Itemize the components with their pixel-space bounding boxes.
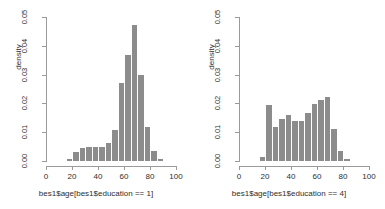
y-axis-tick-label-text: 0.01 [213, 125, 222, 140]
y-axis-tick-label-text: 0.02 [20, 96, 29, 111]
y-axis-tick [235, 46, 239, 47]
x-axis-tick [176, 166, 177, 170]
x-axis-tick [369, 166, 370, 170]
x-axis-tick-label: 100 [164, 172, 188, 181]
y-axis-tick [42, 17, 46, 18]
x-axis-tick-label: 60 [112, 172, 136, 181]
y-axis-tick [42, 103, 46, 104]
histogram-bar [318, 100, 324, 161]
y-axis-tick [235, 161, 239, 162]
y-axis-tick [42, 132, 46, 133]
histogram-bar [292, 121, 298, 161]
x-axis-tick [343, 166, 344, 170]
plot-area-right [240, 17, 370, 161]
x-axis-tick [265, 166, 266, 170]
x-axis-title-left: bes1$age[bes1$education == 1] [0, 189, 192, 198]
x-axis-tick [124, 166, 125, 170]
histogram-bar [331, 129, 337, 161]
y-axis-tick [42, 46, 46, 47]
histogram-bar [266, 105, 272, 161]
histogram-bar [73, 152, 79, 161]
histogram-bar [325, 97, 331, 161]
y-axis-tick-label: 0.03 [203, 61, 231, 89]
y-axis-tick-label-text: 0.00 [20, 154, 29, 169]
y-axis-tick-label: 0.05 [203, 3, 231, 31]
y-axis-tick-label-text: 0.04 [20, 38, 29, 53]
x-axis-tick [317, 166, 318, 170]
y-axis-tick-label-text: 0.01 [20, 125, 29, 140]
x-axis-tick-label: 0 [34, 172, 58, 181]
y-axis-tick-label-text: 0.00 [213, 154, 222, 169]
histogram-bar [145, 127, 151, 161]
histogram-bar [312, 104, 318, 161]
x-axis-tick-label: 40 [86, 172, 110, 181]
y-axis-tick-label: 0.03 [10, 61, 38, 89]
histogram-bar [119, 83, 125, 161]
histogram-bar [138, 75, 144, 161]
x-axis-tick-label: 20 [253, 172, 277, 181]
histogram-bar [106, 143, 112, 161]
y-axis-tick [42, 75, 46, 76]
y-axis-tick [42, 161, 46, 162]
y-axis-tick-label: 0.01 [10, 118, 38, 146]
x-axis-tick-label: 0 [227, 172, 251, 181]
histogram-bar [67, 159, 73, 161]
histogram-bars-right [240, 17, 370, 161]
histogram-bar [299, 121, 305, 161]
histogram-bar [125, 55, 131, 161]
histogram-bar [344, 159, 350, 161]
x-axis-tick [46, 166, 47, 170]
x-axis-tick [239, 166, 240, 170]
y-axis-tick-label-text: 0.03 [213, 67, 222, 82]
x-axis-title-right: bes1$age[bes1$education == 4] [193, 189, 385, 198]
y-axis-tick-label-text: 0.05 [20, 10, 29, 25]
histogram-bar [305, 113, 311, 161]
y-axis-tick-label: 0.04 [10, 32, 38, 60]
plot-area-left [47, 17, 177, 161]
histogram-bar [86, 147, 92, 161]
panel-education-4: density 0.000.010.020.030.040.05 0204060… [193, 0, 385, 209]
histogram-bars-left [47, 17, 177, 161]
y-axis-tick [235, 132, 239, 133]
y-axis-tick [235, 17, 239, 18]
histogram-bar [286, 115, 292, 161]
x-axis-tick-label: 20 [60, 172, 84, 181]
y-axis-tick [235, 75, 239, 76]
y-axis-tick-label-text: 0.03 [20, 67, 29, 82]
y-axis-tick [235, 103, 239, 104]
histogram-bar [93, 147, 99, 161]
y-axis-tick-label-text: 0.05 [213, 10, 222, 25]
x-axis-tick [98, 166, 99, 170]
x-axis-tick [72, 166, 73, 170]
y-axis-tick-label: 0.02 [10, 89, 38, 117]
y-axis-tick-label: 0.02 [203, 89, 231, 117]
histogram-bar [151, 151, 157, 161]
x-axis-tick-label: 60 [305, 172, 329, 181]
y-axis-tick-label: 0.01 [203, 118, 231, 146]
histogram-bar [273, 127, 279, 161]
histogram-bar [112, 130, 118, 161]
y-axis-tick-label-text: 0.02 [213, 96, 222, 111]
histogram-bar [132, 25, 138, 162]
x-axis-tick-label: 100 [357, 172, 381, 181]
histogram-bar [260, 157, 266, 161]
y-axis-tick-label: 0.00 [10, 147, 38, 175]
histogram-bar [279, 119, 285, 161]
x-axis-tick-label: 40 [279, 172, 303, 181]
histogram-bar [99, 147, 105, 161]
y-axis-tick-label: 0.05 [10, 3, 38, 31]
x-axis-tick-label: 80 [138, 172, 162, 181]
histogram-bar [80, 148, 86, 161]
histogram-bar [158, 159, 164, 161]
x-axis-tick [291, 166, 292, 170]
histogram-bar [338, 151, 344, 161]
y-axis-tick-label: 0.00 [203, 147, 231, 175]
y-axis-tick-label: 0.04 [203, 32, 231, 60]
x-axis-tick [150, 166, 151, 170]
panel-education-1: density 0.000.010.020.030.040.05 0204060… [0, 0, 192, 209]
x-axis-line-right [239, 166, 370, 167]
x-axis-tick-label: 80 [331, 172, 355, 181]
y-axis-tick-label-text: 0.04 [213, 38, 222, 53]
x-axis-line-left [46, 166, 177, 167]
histogram-figure: density 0.000.010.020.030.040.05 0204060… [0, 0, 385, 209]
